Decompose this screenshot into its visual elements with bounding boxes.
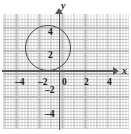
x-tick-label: 4 [107, 78, 112, 88]
x-axis-label: x [122, 66, 127, 76]
coordinate-plane-figure: x y –4–202442–2–4 [0, 0, 131, 134]
x-axis-arrowhead-icon [113, 67, 119, 75]
x-tick-label: 0 [62, 78, 67, 88]
y-tick-label: –4 [45, 110, 55, 120]
y-axis-label: y [61, 1, 65, 11]
circle-curve [25, 25, 71, 71]
x-tick-label: –4 [15, 78, 25, 88]
x-tick-label: 2 [84, 78, 89, 88]
y-tick-label: –2 [45, 86, 55, 96]
